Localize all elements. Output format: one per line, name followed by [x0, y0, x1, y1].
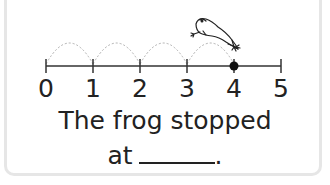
question-prefix: at	[107, 141, 132, 170]
stop-point	[230, 62, 239, 71]
tick-label-4: 4	[226, 74, 242, 100]
tick-label-0: 0	[38, 74, 54, 100]
tick-label-3: 3	[179, 74, 195, 100]
question-line-2: at.	[0, 140, 330, 170]
tick-label-5: 5	[273, 74, 289, 100]
question-line-1: The frog stopped	[0, 106, 330, 135]
tick-label-2: 2	[132, 74, 148, 100]
tick-label-1: 1	[85, 74, 101, 100]
question-suffix: .	[215, 141, 223, 170]
frog-icon	[191, 19, 240, 51]
number-line: 0 1 2 3 4 5	[0, 0, 330, 100]
answer-blank[interactable]	[139, 140, 215, 164]
